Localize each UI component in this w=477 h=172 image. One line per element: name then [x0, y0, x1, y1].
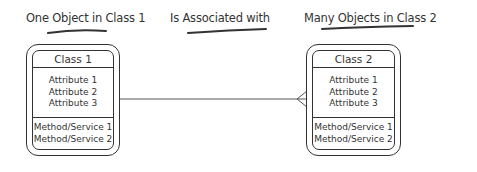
attribute: Attribute 3	[329, 98, 377, 110]
underline-middle	[188, 29, 266, 33]
attribute: Attribute 1	[49, 75, 97, 87]
attribute: Attribute 3	[49, 98, 97, 110]
method: Method/Service 2	[314, 134, 393, 146]
class-name: Class 1	[33, 51, 113, 68]
class-attributes: Attribute 1 Attribute 2 Attribute 3	[313, 68, 394, 118]
class-attributes: Attribute 1 Attribute 2 Attribute 3	[33, 68, 113, 118]
method: Method/Service 1	[34, 122, 113, 134]
method: Method/Service 1	[314, 122, 393, 134]
class-methods: Method/Service 1 Method/Service 2	[33, 118, 113, 149]
class-box-1-inner: Class 1 Attribute 1 Attribute 2 Attribut…	[32, 50, 114, 150]
class-name: Class 2	[313, 51, 394, 68]
underline-left	[48, 30, 106, 33]
method: Method/Service 2	[34, 134, 113, 146]
underline-right	[322, 26, 413, 29]
attribute: Attribute 1	[329, 75, 377, 87]
attribute: Attribute 2	[329, 87, 377, 99]
class-box-2-inner: Class 2 Attribute 1 Attribute 2 Attribut…	[312, 50, 395, 150]
attribute: Attribute 2	[49, 87, 97, 99]
class-methods: Method/Service 1 Method/Service 2	[313, 118, 394, 149]
